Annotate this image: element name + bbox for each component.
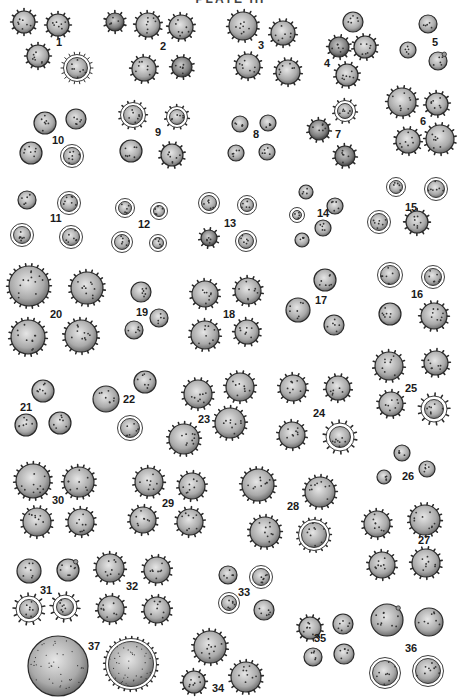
figure-7: 7 (307, 99, 358, 168)
pollen-grain (429, 52, 447, 70)
figure-number-label: 1 (56, 36, 62, 48)
pollen-grain (422, 266, 445, 289)
pollen-grain (379, 303, 401, 325)
pollen-grain (304, 648, 322, 666)
figure-8: 8 (228, 115, 276, 161)
pollen-grain (286, 298, 310, 322)
pollen-grain (159, 142, 185, 168)
pollen-grain (170, 55, 194, 80)
pollen-grain (327, 198, 343, 214)
pollen-grain (28, 636, 88, 696)
figure-number-label: 36 (405, 642, 417, 654)
pollen-grain (104, 637, 159, 692)
pollen-grain (199, 193, 220, 214)
figure-number-label: 29 (162, 497, 174, 509)
figure-15: 15 (368, 178, 448, 236)
pollen-grain (125, 321, 143, 339)
figure-number-label: 34 (212, 682, 225, 694)
pollen-grain (104, 11, 126, 34)
pollen-grain (112, 232, 133, 253)
figure-13: 13 (199, 193, 257, 252)
figure-18: 18 (189, 276, 263, 352)
pollen-grain (182, 378, 215, 410)
figure-24: 24 (277, 373, 357, 454)
figure-number-label: 32 (126, 580, 138, 592)
figure-number-label: 37 (88, 640, 100, 652)
figure-22: 22 (93, 371, 156, 441)
pollen-grain (66, 109, 86, 129)
figure-number-label: 6 (420, 115, 426, 127)
figure-10: 10 (20, 109, 86, 168)
pollen-grain (150, 235, 167, 252)
pollen-grain (32, 380, 54, 402)
pollen-grain (422, 349, 451, 378)
pollen-grain (400, 42, 416, 58)
pollen-grain (60, 226, 83, 249)
figure-number-label: 31 (40, 584, 52, 596)
pollen-grain (314, 269, 336, 291)
figure-23: 23 (167, 371, 257, 456)
pollen-grain (142, 595, 173, 626)
pollen-grain (260, 115, 276, 131)
pollen-grain (63, 318, 100, 355)
figure-37: 37 (28, 636, 158, 696)
pollen-grain (419, 461, 435, 477)
pollen-grain (371, 604, 403, 636)
pollen-grain (373, 350, 406, 383)
pollen-grain (418, 393, 450, 425)
figure-number-label: 3 (258, 39, 264, 51)
pollen-grain (227, 10, 260, 43)
pollen-grain (15, 414, 37, 436)
pollen-grain (181, 669, 208, 696)
pollen-grain (118, 416, 143, 441)
pollen-grain (274, 58, 303, 86)
pollen-grain (11, 224, 34, 247)
pollen-grain (277, 420, 307, 451)
pollen-grain (368, 211, 391, 234)
pollen-grain (130, 55, 159, 84)
pollen-grain (333, 144, 358, 168)
pollen-plate: 1234567891011121314151617181920212223242… (0, 0, 461, 700)
figure-number-label: 13 (224, 217, 236, 229)
pollen-grain (49, 412, 71, 434)
pollen-grain (254, 600, 274, 620)
figure-number-label: 9 (155, 126, 161, 138)
figure-number-label: 33 (238, 586, 250, 598)
pollen-grain (394, 127, 423, 156)
figure-36: 36 (370, 604, 444, 689)
pollen-grain (419, 301, 450, 331)
pollen-grain (370, 658, 401, 689)
pollen-grain (327, 35, 351, 60)
figure-number-label: 27 (418, 534, 430, 546)
pollen-grain (96, 594, 127, 625)
pollen-grain (62, 465, 97, 500)
figure-16: 16 (378, 263, 450, 332)
pollen-grain (408, 503, 443, 538)
pollen-grain (34, 112, 56, 134)
pollen-grain (150, 309, 168, 327)
figure-number-label: 7 (335, 128, 341, 140)
pollen-grain (352, 34, 379, 61)
pollen-grain (134, 11, 163, 40)
figure-11: 11 (11, 191, 83, 249)
figure-29: 29 (128, 466, 208, 538)
pollen-grain (386, 86, 419, 119)
pollen-grain (259, 144, 275, 160)
pollen-grain (343, 12, 363, 32)
figure-number-label: 35 (314, 632, 326, 644)
figure-number-label: 2 (160, 40, 166, 52)
pollen-grain (165, 105, 190, 129)
pollen-grain (224, 371, 257, 403)
pollen-grain (199, 228, 220, 249)
figure-5: 5 (400, 15, 447, 70)
figure-number-label: 23 (198, 413, 210, 425)
figure-number-label: 18 (223, 308, 235, 320)
pollen-grain (25, 43, 52, 70)
pollen-grain (290, 208, 305, 223)
pollen-grain (410, 547, 443, 580)
pollen-grain (367, 550, 397, 581)
pollen-grain (120, 140, 142, 162)
pollen-grain (238, 196, 257, 215)
pollen-grain (57, 559, 79, 581)
figure-35: 35 (297, 614, 354, 666)
